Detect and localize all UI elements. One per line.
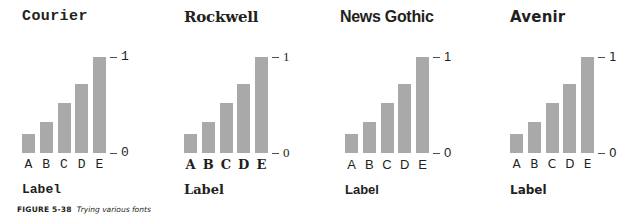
- chart-panel-row: Courier 1 0 A: [0, 0, 640, 200]
- figure-caption-number: FIGURE 5-38: [17, 205, 72, 214]
- tick-dash-icon: [272, 153, 279, 154]
- x-label-a: A: [345, 157, 358, 172]
- x-label-d: D: [237, 157, 250, 172]
- bar-b: [528, 122, 541, 153]
- chart-title-news-gothic: News Gothic: [340, 8, 434, 26]
- x-label-a: A: [22, 157, 35, 172]
- chart-title-avenir: Avenir: [510, 8, 565, 26]
- x-label-e: E: [416, 157, 429, 172]
- tick-dash-icon: [272, 57, 279, 58]
- bar-c: [546, 103, 559, 153]
- bar-a: [184, 134, 197, 153]
- bar-e: [416, 57, 429, 153]
- chart-title-rockwell: Rockwell: [184, 8, 258, 26]
- bar-e: [255, 57, 268, 153]
- x-label-a: A: [184, 157, 197, 172]
- bar-group-rockwell: [184, 57, 268, 153]
- bar-group-courier: [22, 57, 106, 153]
- x-label-c: C: [381, 157, 394, 172]
- x-label-d: D: [398, 157, 411, 172]
- tick-dash-icon: [110, 57, 117, 58]
- x-axis-categories-courier: A B C D E: [22, 157, 106, 172]
- bar-e: [93, 57, 106, 153]
- bar-b: [363, 122, 376, 153]
- tick-dash-icon: [598, 153, 605, 154]
- x-axis-categories-news-gothic: A B C D E: [345, 157, 429, 172]
- x-label-b: B: [528, 157, 541, 172]
- x-label-e: E: [93, 157, 106, 172]
- bar-b: [40, 122, 53, 153]
- x-axis-title-rockwell: Label: [184, 182, 224, 198]
- chart-panel-news-gothic: News Gothic 1 0 A: [320, 0, 480, 200]
- plot-area-avenir: 1 0 A B C D E Label: [510, 57, 594, 153]
- bar-b: [202, 122, 215, 153]
- bar-c: [381, 103, 394, 153]
- bar-d: [75, 84, 88, 153]
- tick-dash-icon: [110, 153, 117, 154]
- x-label-b: B: [40, 157, 53, 172]
- x-label-a: A: [510, 157, 523, 172]
- bar-e: [581, 57, 594, 153]
- bar-d: [398, 84, 411, 153]
- x-label-d: D: [563, 157, 576, 172]
- figure-caption: FIGURE 5-38Trying various fonts: [17, 205, 151, 215]
- x-axis-title-news-gothic: Label: [345, 182, 379, 198]
- bar-a: [22, 134, 35, 153]
- bar-c: [58, 103, 71, 153]
- x-label-b: B: [363, 157, 376, 172]
- x-label-b: B: [202, 157, 215, 172]
- bar-a: [510, 134, 523, 153]
- chart-panel-courier: Courier 1 0 A: [0, 0, 160, 200]
- figure-container: Courier 1 0 A: [0, 0, 640, 222]
- bar-a: [345, 134, 358, 153]
- bar-c: [220, 103, 233, 153]
- chart-title-courier: Courier: [22, 8, 88, 26]
- x-label-c: C: [220, 157, 233, 172]
- plot-area-courier: 1 0 A B C D E Label: [22, 57, 106, 153]
- tick-dash-icon: [433, 153, 440, 154]
- bar-d: [563, 84, 576, 153]
- plot-area-rockwell: 1 0 A B C D E Label: [184, 57, 268, 153]
- x-label-c: C: [58, 157, 71, 172]
- plot-area-news-gothic: 1 0 A B C D E Label: [345, 57, 429, 153]
- x-axis-title-avenir: Label: [510, 182, 547, 198]
- chart-panel-rockwell: Rockwell 1 0 A: [160, 0, 320, 200]
- bar-group-news-gothic: [345, 57, 429, 153]
- x-label-e: E: [581, 157, 594, 172]
- bar-group-avenir: [510, 57, 594, 153]
- x-label-d: D: [75, 157, 88, 172]
- x-axis-categories-rockwell: A B C D E: [184, 157, 268, 172]
- chart-panel-avenir: Avenir 1 0 A: [480, 0, 640, 200]
- bar-d: [237, 84, 250, 153]
- tick-dash-icon: [598, 57, 605, 58]
- figure-caption-text: Trying various fonts: [77, 205, 151, 214]
- x-label-e: E: [255, 157, 268, 172]
- tick-dash-icon: [433, 57, 440, 58]
- x-label-c: C: [546, 157, 559, 172]
- x-axis-categories-avenir: A B C D E: [510, 157, 594, 172]
- x-axis-title-courier: Label: [22, 182, 61, 198]
